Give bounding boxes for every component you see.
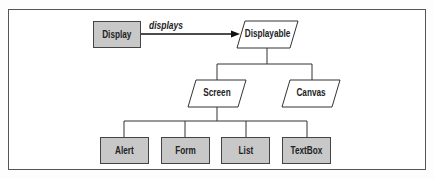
node-form: Form: [161, 137, 210, 164]
node-form-label: Form: [175, 145, 196, 156]
node-list: List: [221, 137, 270, 164]
node-list-label: List: [238, 145, 253, 156]
edge-label-displays: displays: [149, 20, 183, 31]
node-textbox: TextBox: [282, 137, 331, 164]
node-displayable-label: Displayable: [242, 28, 292, 39]
node-alert-label: Alert: [115, 145, 134, 156]
node-textbox-label: TextBox: [291, 145, 323, 156]
node-canvas-label: Canvas: [287, 87, 335, 98]
arrowhead-icon: [231, 31, 240, 38]
node-alert: Alert: [100, 137, 149, 164]
node-display: Display: [93, 21, 141, 48]
node-screen-label: Screen: [193, 87, 241, 98]
node-display-label: Display: [102, 29, 131, 40]
